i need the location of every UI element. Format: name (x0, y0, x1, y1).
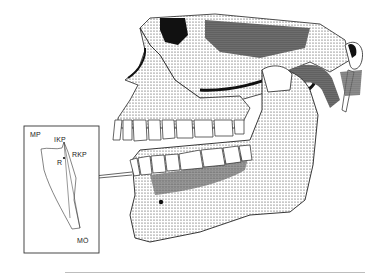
label-mo: MÖ (77, 237, 89, 244)
point-r (63, 157, 65, 159)
bottom-rule (65, 272, 365, 273)
inset-diagram (24, 126, 99, 253)
label-rkp: RKP (72, 151, 87, 158)
label-ikp: IKP (54, 136, 66, 143)
label-r: R (57, 159, 62, 166)
inset-frame (24, 126, 99, 253)
label-mp: MP (30, 131, 41, 138)
mental-foramen (159, 200, 163, 204)
